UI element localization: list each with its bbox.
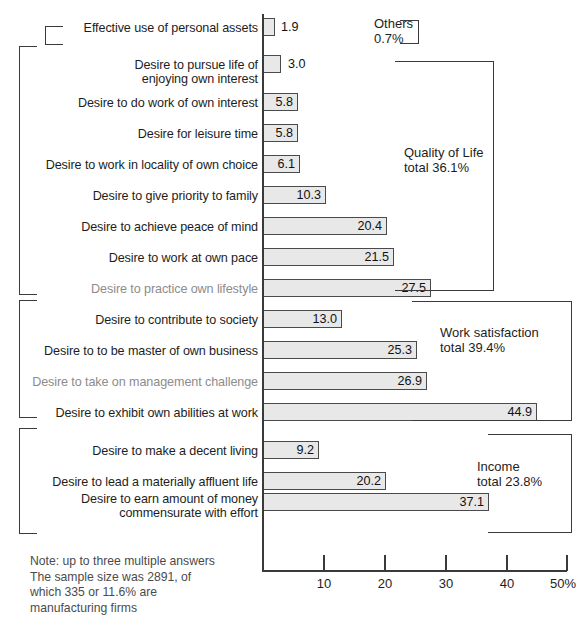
group-bracket-right-quality-of-life — [395, 61, 494, 291]
bar-value-6: 20.4 — [263, 217, 382, 235]
bar-value-4: 6.1 — [263, 155, 295, 173]
row-label: Desire to work in locality of own choice — [46, 158, 258, 172]
x-tick-label-40: 40 — [482, 576, 532, 591]
y-axis-line — [262, 14, 264, 571]
bar-1 — [263, 55, 281, 73]
row-label: Desire to work at own pace — [109, 251, 258, 265]
bar-value-15: 37.1 — [263, 493, 484, 511]
x-tick-40 — [506, 555, 508, 571]
bar-value-5: 10.3 — [263, 186, 321, 204]
row-label: Desire to contribute to society — [95, 313, 258, 327]
bar-value-13: 9.2 — [263, 441, 314, 459]
group-caption-income: Income total 23.8% — [477, 459, 542, 489]
row-label: Desire to give priority to family — [93, 189, 258, 203]
row-label: Desire to lead a materially affluent lif… — [52, 475, 258, 489]
group-bracket-left-others — [45, 26, 63, 45]
row-label: Desire for leisure time — [138, 127, 258, 141]
row-label: Effective use of personal assets — [84, 21, 258, 35]
chart-figure: Effective use of personal assets Desire … — [0, 0, 586, 632]
row-label: Desire to practice own lifestyle — [91, 282, 258, 296]
row-label: Desire to earn amount of money commensur… — [81, 492, 258, 520]
x-tick-30 — [445, 555, 447, 571]
group-caption-others: Others 0.7% — [374, 16, 413, 46]
row-label: Desire to exhibit own abilities at work — [55, 406, 258, 420]
row-label: Desire to do work of own interest — [78, 96, 258, 110]
group-bracket-left-quality-of-life — [19, 46, 37, 295]
group-bracket-left-income — [19, 428, 37, 534]
group-caption-quality-of-life: Quality of Life total 36.1% — [404, 145, 484, 175]
row-label: Desire to make a decent living — [92, 444, 258, 458]
bar-value-11: 26.9 — [263, 372, 422, 390]
x-tick-10 — [323, 555, 325, 571]
row-label: Desire to to be master of own business — [44, 344, 258, 358]
row-label: Desire to pursue life of enjoying own in… — [134, 58, 258, 86]
bar-value-14: 20.2 — [263, 472, 381, 490]
bar-value-9: 13.0 — [263, 310, 337, 328]
group-caption-work-satisfaction: Work satisfaction total 39.4% — [440, 325, 539, 355]
group-bracket-right-work-satisfaction — [412, 301, 572, 421]
row-label: Desire to take on management challenge — [32, 375, 258, 389]
x-tick-20 — [384, 555, 386, 571]
x-tick-50 — [566, 555, 568, 571]
x-tick-label-10: 10 — [299, 576, 349, 591]
x-tick-label-20: 20 — [360, 576, 410, 591]
chart-note: Note: up to three multiple answers The s… — [30, 554, 215, 616]
bar-value-2: 5.8 — [263, 93, 293, 111]
x-axis-line — [262, 570, 567, 572]
bar-0 — [263, 18, 275, 36]
x-tick-label-30: 30 — [421, 576, 471, 591]
bar-value-10: 25.3 — [263, 341, 412, 359]
x-tick-label-50: 50% — [538, 576, 586, 591]
bar-value-7: 21.5 — [263, 248, 389, 266]
bar-value-3: 5.8 — [263, 124, 293, 142]
row-label: Desire to achieve peace of mind — [81, 220, 258, 234]
bar-value-0: 1.9 — [281, 18, 299, 36]
bar-value-1: 3.0 — [288, 55, 306, 73]
group-bracket-left-work-satisfaction — [19, 300, 37, 418]
